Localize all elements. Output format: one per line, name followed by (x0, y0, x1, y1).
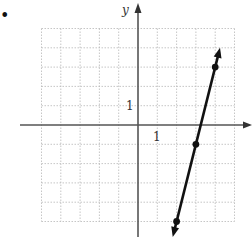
line-arrow-down-icon (171, 226, 179, 237)
y-axis-arrow-icon (135, 3, 142, 13)
x-tick-label-1: 1 (153, 130, 161, 144)
y-axis-label: y (121, 3, 129, 17)
x-axis-arrow-icon (243, 122, 252, 129)
y-tick-label-1: 1 (126, 99, 134, 113)
data-point (173, 218, 180, 225)
data-point (193, 141, 200, 148)
data-point (212, 64, 219, 71)
coordinate-plane: y 1 1 (0, 0, 252, 237)
